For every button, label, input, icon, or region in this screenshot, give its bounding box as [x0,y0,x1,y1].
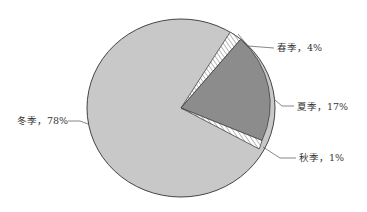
leader-winter [68,121,88,124]
label-summer: 夏季，17% [297,101,348,112]
leader-autumn [263,147,296,158]
label-autumn: 秋季，1% [299,152,344,163]
label-winter: 冬季，78% [17,115,68,126]
label-spring: 春季，4% [277,42,322,53]
pie-chart: 春季，4% 夏季，17% 秋季，1% 冬季，78% [0,0,367,212]
leader-summer [275,100,294,106]
